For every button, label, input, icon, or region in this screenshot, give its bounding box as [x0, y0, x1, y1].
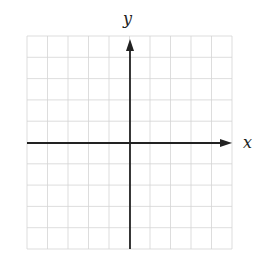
x-axis-arrow-icon: [220, 139, 232, 147]
y-axis-arrow-icon: [126, 39, 134, 51]
y-axis-label: y: [122, 9, 133, 28]
x-axis-label: x: [243, 133, 252, 152]
coordinate-plane: x y: [0, 0, 260, 254]
